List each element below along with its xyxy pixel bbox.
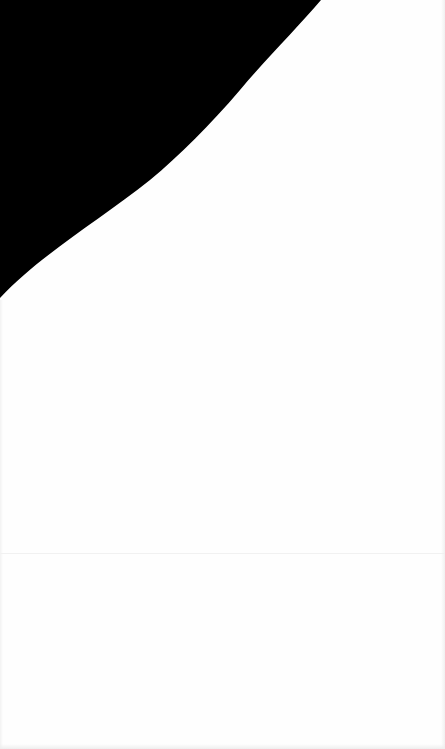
bottom-edge-shade <box>0 744 445 749</box>
horizontal-divider <box>0 553 445 554</box>
left-edge-shade <box>0 300 3 749</box>
right-edge-shade <box>441 0 445 749</box>
black-curved-shape-layer <box>0 0 445 749</box>
blank-page <box>0 0 445 749</box>
black-curved-shape <box>0 0 321 298</box>
